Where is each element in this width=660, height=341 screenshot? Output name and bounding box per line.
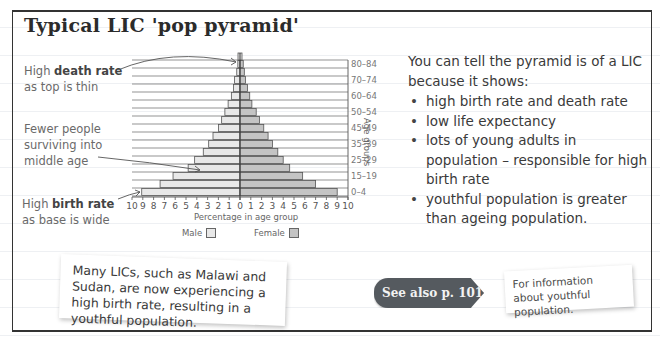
x-axis-label: Percentage in age group [194, 212, 298, 222]
svg-text:8: 8 [151, 201, 157, 211]
list-item: lots of young adults in population – res… [408, 131, 648, 190]
see-also-link[interactable]: See also p. 101 [374, 278, 484, 308]
y-axis-label: Age groups [362, 118, 372, 166]
svg-text:6: 6 [302, 201, 308, 211]
svg-text:8: 8 [324, 201, 330, 211]
svg-text:9: 9 [334, 201, 340, 211]
svg-text:7: 7 [162, 201, 168, 211]
svg-text:1: 1 [226, 201, 232, 211]
svg-text:10: 10 [342, 201, 354, 211]
svg-text:1: 1 [248, 201, 254, 211]
list-item: youthful population is greater than agei… [408, 190, 648, 229]
male-swatch [206, 228, 216, 238]
svg-text:50–54: 50–54 [351, 107, 377, 117]
svg-text:10: 10 [126, 201, 138, 211]
svg-text:3: 3 [270, 201, 276, 211]
explanation-list: high birth rate and death rate low life … [408, 92, 648, 229]
svg-text:3: 3 [205, 201, 211, 211]
svg-text:0: 0 [237, 201, 243, 211]
svg-text:0–4: 0–4 [351, 187, 366, 197]
list-item: low life expectancy [408, 112, 648, 132]
female-swatch [289, 228, 299, 238]
svg-text:80–84: 80–84 [351, 59, 377, 69]
svg-text:60–64: 60–64 [351, 91, 377, 101]
explanation-intro: You can tell the pyramid is of a LIC bec… [408, 52, 648, 91]
svg-text:2: 2 [259, 201, 265, 211]
svg-text:5: 5 [183, 201, 189, 211]
see-also-info-card: For information about youthful populatio… [504, 265, 634, 314]
malawi-sudan-callout: Many LICs, such as Malawi and Sudan, are… [59, 254, 287, 326]
legend-female: Female [254, 228, 299, 238]
svg-text:70–74: 70–74 [351, 75, 377, 85]
svg-text:7: 7 [313, 201, 319, 211]
svg-text:2: 2 [216, 201, 222, 211]
explanation-panel: You can tell the pyramid is of a LIC bec… [408, 52, 648, 229]
svg-text:4: 4 [194, 201, 200, 211]
svg-text:15–19: 15–19 [351, 171, 377, 181]
svg-text:9: 9 [140, 201, 146, 211]
svg-text:4: 4 [280, 201, 286, 211]
svg-text:6: 6 [172, 201, 178, 211]
list-item: high birth rate and death rate [408, 92, 648, 112]
legend-male: Male [182, 228, 216, 238]
svg-text:5: 5 [291, 201, 297, 211]
